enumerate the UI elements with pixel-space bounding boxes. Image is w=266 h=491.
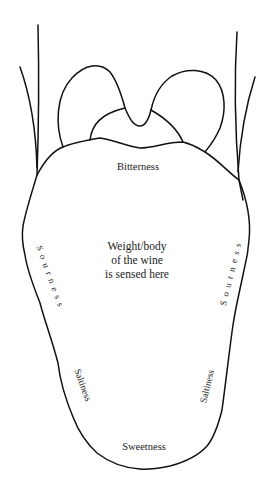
left-lobe bbox=[58, 66, 151, 147]
label-sourness-right: Sourness bbox=[218, 238, 244, 307]
label-center-line2: of the wine bbox=[111, 254, 163, 266]
label-center-line3: is sensed here bbox=[105, 268, 169, 280]
label-bitterness: Bitterness bbox=[117, 161, 159, 172]
throat-line-right-inner bbox=[235, 32, 243, 200]
right-lobe bbox=[151, 70, 224, 152]
label-center-line1: Weight/body bbox=[107, 240, 166, 253]
tongue-diagram: Bitterness Weight/body of the wine is se… bbox=[0, 0, 266, 491]
throat-line-left-inner bbox=[37, 25, 39, 175]
label-sweetness: Sweetness bbox=[122, 441, 166, 452]
throat-line-right-outer bbox=[238, 77, 255, 172]
label-saltiness-right: Saltiness bbox=[198, 368, 216, 403]
throat-line-left-outer bbox=[20, 67, 37, 168]
label-saltiness-left: Saltiness bbox=[72, 367, 93, 402]
